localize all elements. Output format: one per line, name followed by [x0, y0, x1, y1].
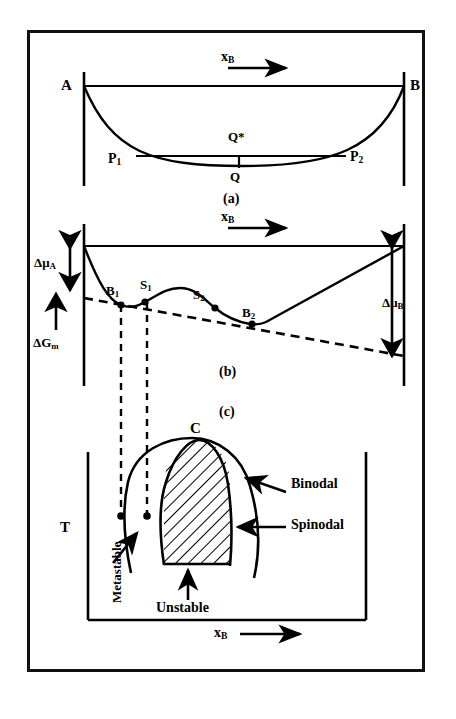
panel-b-point-b2 [248, 320, 255, 327]
panel-c-drawing [88, 438, 366, 634]
panel-b-xb-label: xB [221, 210, 234, 226]
panel-c-xb-subscript: B [221, 631, 227, 641]
panel-b-xb-subscript: B [228, 215, 234, 225]
label-curve-binodal: Binodal [291, 477, 338, 491]
panel-a-caption: (a) [223, 192, 239, 206]
label-endpoint-b: B [410, 78, 420, 93]
figure-canvas: A B xB P1 P2 Q* Q (a) xB ΔμA ΔμB ΔGm B1 … [0, 0, 456, 719]
panel-c-point-spinodal [143, 512, 151, 520]
label-temperature-axis: T [60, 520, 70, 535]
label-curve-spinodal: Spinodal [291, 518, 344, 532]
panel-a-drawing [84, 68, 404, 186]
label-endpoint-a: A [61, 78, 72, 93]
label-point-q: Q [230, 170, 240, 183]
label-region-unstable: Unstable [156, 601, 209, 615]
label-point-s2: S2 [193, 288, 205, 303]
label-point-qstar: Q* [228, 130, 245, 143]
panel-c-xb-label: xB [214, 626, 227, 642]
panel-b-caption: (b) [219, 365, 236, 379]
label-delta-mu-a: ΔμA [34, 256, 56, 271]
panel-c-caption: (c) [219, 405, 235, 419]
label-region-metastable: Metastable [110, 542, 123, 603]
label-delta-mu-b: ΔμB [382, 296, 403, 311]
label-point-b2: B2 [242, 306, 255, 321]
label-point-p2: P2 [350, 150, 363, 166]
label-point-b1: B1 [106, 284, 119, 299]
label-point-s1: S1 [140, 278, 152, 293]
panel-c-point-binodal [117, 512, 125, 520]
figure-drawing [0, 0, 456, 719]
panel-a-xb-label: xB [221, 50, 234, 66]
label-delta-g-m: ΔGm [33, 336, 59, 351]
label-critical-point-c: C [190, 421, 201, 436]
panel-a-xb-subscript: B [228, 55, 234, 65]
label-point-p1: P1 [108, 152, 121, 168]
panel-b-point-s2 [211, 304, 218, 311]
